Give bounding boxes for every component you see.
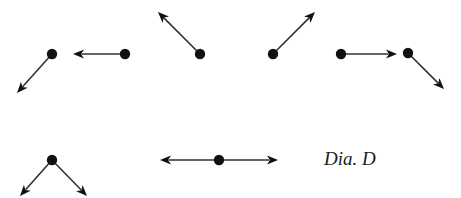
arrow-icon xyxy=(160,156,219,165)
dot-arrows-split-down xyxy=(20,155,87,196)
dot-icon xyxy=(47,155,57,165)
dot-icon xyxy=(214,155,224,165)
arrow-icon xyxy=(17,54,52,93)
diagram-canvas xyxy=(0,0,461,198)
dot-arrows-horizontal-both xyxy=(160,155,278,165)
dot-icon xyxy=(403,48,413,58)
arrow-icon xyxy=(52,160,87,196)
arrow-icon xyxy=(219,156,278,165)
dot-arrow-up-right xyxy=(268,12,315,59)
dot-arrow-down-left xyxy=(17,49,57,93)
arrow-icon xyxy=(341,50,397,59)
dot-arrow-left xyxy=(73,49,130,59)
dot-icon xyxy=(195,49,205,59)
dot-icon xyxy=(120,49,130,59)
arrow-icon xyxy=(408,53,444,89)
dot-icon xyxy=(336,49,346,59)
dot-arrow-right xyxy=(336,49,397,59)
arrow-icon xyxy=(20,160,52,196)
arrow-icon xyxy=(158,12,200,54)
diagram-label: Dia. D xyxy=(324,148,376,170)
dot-arrow-down-right xyxy=(403,48,444,89)
arrow-icon xyxy=(73,50,125,59)
dot-icon xyxy=(47,49,57,59)
arrow-icon xyxy=(273,12,315,54)
dot-icon xyxy=(268,49,278,59)
dot-arrow-up-left xyxy=(158,12,205,59)
